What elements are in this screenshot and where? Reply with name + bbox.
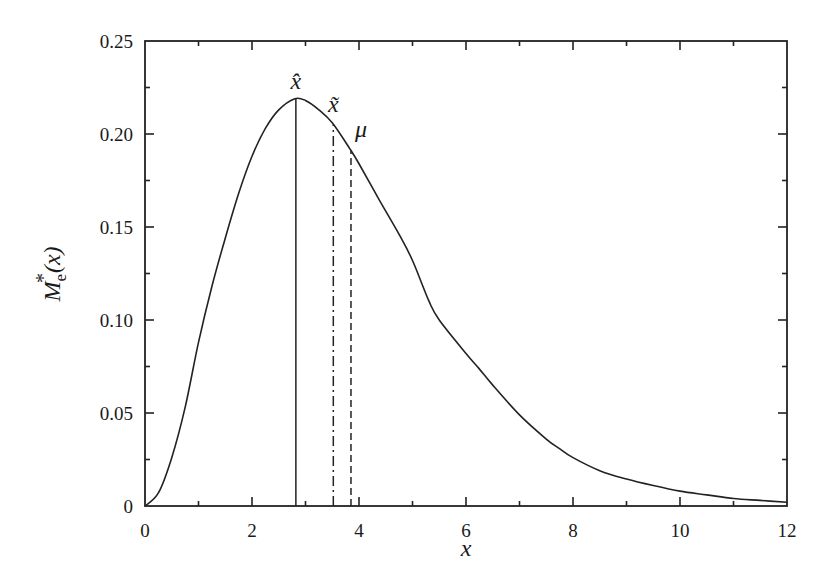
y-tick-label: 0.15 (100, 217, 133, 238)
x-tick-label: 2 (247, 520, 257, 541)
axis-ticks (145, 41, 787, 506)
marker-label-median: x̃ (327, 91, 340, 117)
x-tick-label: 10 (671, 520, 690, 541)
plot-frame (145, 41, 787, 506)
plot-area: 02468101200.050.100.150.200.25 x̂x̃μ (100, 31, 797, 541)
x-axis-label: x (460, 535, 472, 561)
y-axis-label-superscript: * (32, 273, 54, 283)
y-axis-label: Me*(x) (32, 246, 70, 302)
y-tick-label: 0.25 (100, 31, 133, 52)
chart: 02468101200.050.100.150.200.25 x̂x̃μ x M… (0, 0, 834, 585)
x-tick-label: 0 (140, 520, 150, 541)
y-tick-label: 0.05 (100, 403, 133, 424)
series-line-me-star (145, 98, 787, 506)
y-tick-label: 0.20 (100, 124, 133, 145)
y-tick-label: 0.10 (100, 310, 133, 331)
axis-tick-labels: 02468101200.050.100.150.200.25 (100, 31, 797, 541)
x-tick-label: 8 (568, 520, 578, 541)
x-tick-label: 4 (354, 520, 364, 541)
marker-lines: x̂x̃μ (290, 68, 367, 506)
y-axis-label-argument: (x) (39, 246, 65, 273)
x-tick-label: 12 (778, 520, 797, 541)
marker-label-mean: μ (354, 116, 367, 142)
y-tick-label: 0 (124, 496, 134, 517)
marker-label-mode: x̂ (290, 68, 302, 94)
